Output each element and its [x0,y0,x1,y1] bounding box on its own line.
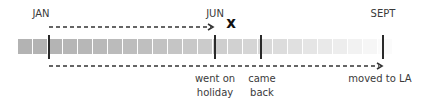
label-came-back-line2: back [248,86,276,100]
label-moved-to-la: moved to LA [348,72,411,86]
label-moved-to-la-line1: moved to LA [348,72,411,86]
label-went-on-holiday: went on holiday [195,72,235,100]
bottom-dashed-arrow [49,63,382,69]
top-dashed-arrow [49,24,213,30]
label-went-on-holiday-line2: holiday [195,86,235,100]
label-came-back-line1: came [248,72,276,86]
label-came-back: came back [248,72,276,100]
label-went-on-holiday-line1: went on [195,72,235,86]
timeline-diagram: JAN JUN SEPT x went on holiday came back… [0,0,430,104]
